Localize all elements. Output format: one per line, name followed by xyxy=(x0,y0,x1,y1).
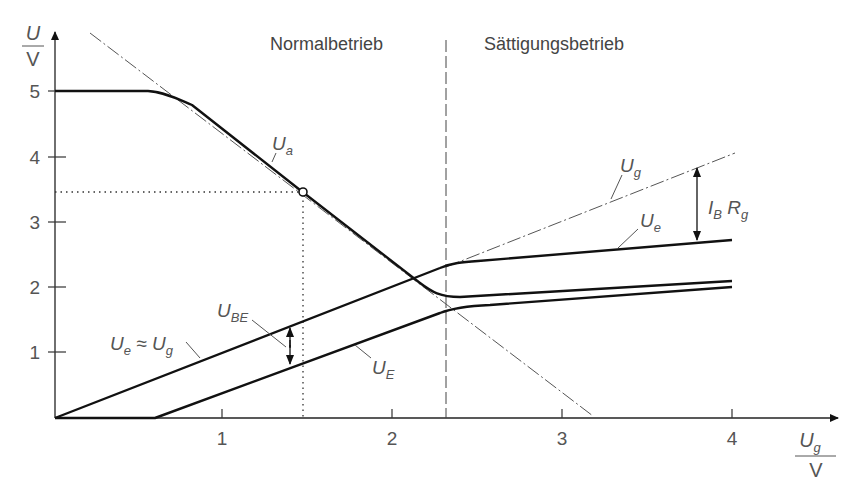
x-tick-label-2: 2 xyxy=(387,428,398,449)
label-ug: Ug xyxy=(620,155,642,180)
region-label-normalbetrieb: Normalbetrieb xyxy=(270,34,383,54)
leader-uE xyxy=(355,345,371,358)
y-axis-label-denominator: V xyxy=(26,48,40,70)
label-ue: Ue xyxy=(640,210,661,235)
y-tick-label-4: 4 xyxy=(29,147,40,168)
leader-ue-approx-ug xyxy=(186,342,200,358)
x-axis-label: Ug V xyxy=(795,429,836,481)
ug-dashdot-line xyxy=(446,153,735,267)
operating-point-marker xyxy=(299,188,307,196)
x-tick-label-4: 4 xyxy=(727,428,738,449)
leader-ue xyxy=(618,229,638,248)
y-tick-label-1: 1 xyxy=(29,342,40,363)
ua-asymptote-line xyxy=(90,33,593,416)
label-ube: UBE xyxy=(217,300,248,325)
label-uE: UE xyxy=(372,357,395,382)
leader-ua xyxy=(272,153,276,162)
x-axis-label-numerator: Ug xyxy=(799,429,821,455)
y-tick-label-3: 3 xyxy=(29,212,40,233)
label-ue-approx-ug: Ue ≈ Ug xyxy=(110,333,174,358)
x-tick-label-3: 3 xyxy=(557,428,568,449)
y-axis-label-numerator: U xyxy=(26,22,41,44)
label-ib-rg: IB Rg xyxy=(708,197,749,222)
y-tick-label-2: 2 xyxy=(29,277,40,298)
chart: 5 4 3 2 1 1 2 3 4 U V Ug V Normalbetrieb… xyxy=(0,0,856,493)
y-axis-label: U V xyxy=(22,22,44,70)
leader-ube xyxy=(252,320,286,347)
region-label-saettigungsbetrieb: Sättigungsbetrieb xyxy=(484,34,624,54)
x-axis-label-denominator: V xyxy=(809,459,823,481)
x-tick-label-1: 1 xyxy=(217,428,228,449)
y-tick-label-5: 5 xyxy=(29,81,40,102)
leader-ug xyxy=(611,175,622,199)
